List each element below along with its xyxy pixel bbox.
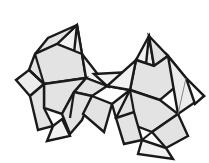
origami-dogs-artboard: Two origami dog figures Line-art illustr… [0,0,209,163]
origami-dogs-illustration: Two origami dog figures Line-art illustr… [0,0,209,163]
